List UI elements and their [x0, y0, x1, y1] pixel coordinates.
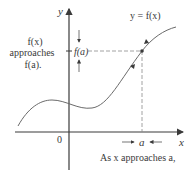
left-note-line-3: f(a).: [25, 59, 42, 71]
curve-label: y = f(x): [130, 10, 161, 22]
left-note-line-2: approaches: [10, 47, 55, 58]
fa-label: f(a): [74, 46, 89, 58]
a-label: a: [139, 136, 145, 148]
point-a-fa: [140, 49, 144, 53]
bottom-note: As x approaches a,: [100, 152, 176, 163]
x-axis-label: x: [178, 136, 184, 148]
origin-label: 0: [57, 134, 62, 145]
y-axis-label: y: [57, 5, 63, 17]
continuity-diagram: y x 0 y = f(x) f(a) a f(x) approaches f(…: [0, 0, 193, 177]
